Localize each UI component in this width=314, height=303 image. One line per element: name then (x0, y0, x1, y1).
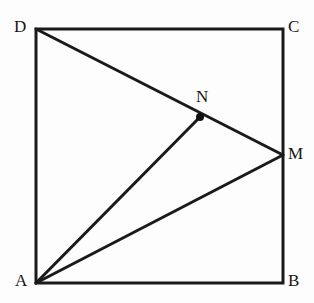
segment-dm (36, 29, 283, 155)
segment-an (36, 117, 200, 283)
point-label-a: A (15, 272, 27, 289)
point-marker-n (196, 113, 204, 121)
geometry-canvas (0, 0, 314, 303)
point-label-m: M (288, 145, 303, 162)
point-label-d: D (14, 18, 26, 35)
point-label-b: B (288, 272, 299, 289)
geometry-figure: D C N M A B (0, 0, 314, 303)
point-label-c: C (288, 18, 299, 35)
point-label-n: N (196, 88, 208, 105)
segment-am (36, 155, 283, 283)
